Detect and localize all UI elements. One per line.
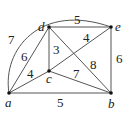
weighted-graph: 7 6 4 5 5 3 4 8 7 6 a b c d e [0, 0, 128, 114]
edge-c-b [49, 71, 111, 93]
weight-d-e: 5 [74, 12, 81, 27]
weight-a-b: 5 [57, 95, 64, 110]
node-b [109, 91, 113, 95]
node-label-e: e [115, 19, 121, 34]
node-e [109, 25, 113, 29]
node-label-a: a [5, 95, 12, 110]
node-label-b: b [108, 96, 115, 111]
node-d [47, 25, 51, 29]
weight-d-c: 3 [53, 42, 60, 57]
weight-a-c: 4 [27, 66, 34, 81]
weight-a-e: 7 [8, 32, 15, 47]
weight-c-b: 7 [73, 66, 80, 81]
weight-d-b: 8 [90, 57, 97, 72]
weight-a-d: 6 [21, 49, 28, 64]
edge-d-b [49, 27, 111, 93]
node-label-d: d [38, 19, 45, 34]
weight-e-b: 6 [116, 51, 123, 66]
weight-c-e: 4 [83, 30, 90, 45]
edge-a-d [9, 27, 49, 93]
node-label-c: c [46, 71, 52, 86]
